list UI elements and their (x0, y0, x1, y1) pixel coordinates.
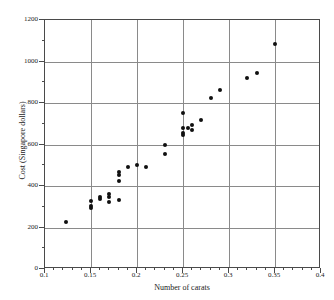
plot-area (44, 19, 320, 268)
gridline-vertical (91, 20, 92, 267)
x-axis-tick-minor (200, 268, 201, 270)
x-axis-tick-label: 0.3 (213, 271, 243, 279)
x-axis-tick-minor (145, 268, 146, 270)
data-point (181, 133, 185, 137)
y-axis-tick-major (39, 268, 44, 269)
y-axis-tick-major (39, 102, 44, 103)
x-axis-tick-label: 0.15 (75, 271, 105, 279)
data-point (144, 165, 148, 169)
y-axis-tick-major (39, 19, 44, 20)
data-point (107, 195, 111, 199)
y-axis-tick-minor (42, 81, 44, 82)
gridline-horizontal (45, 145, 319, 146)
y-axis-tick-minor (42, 164, 44, 165)
gridline-vertical (137, 20, 138, 267)
x-axis-tick-minor (283, 268, 284, 270)
data-point (190, 128, 194, 132)
data-point (163, 152, 167, 156)
x-axis-tick-label: 0.35 (259, 271, 289, 279)
x-axis-tick-minor (99, 268, 100, 270)
y-axis-tick-major (39, 185, 44, 186)
scatter-plot-figure: Number of carats Cost (Singapore dollars… (0, 0, 334, 300)
y-axis-tick-label: 800 (8, 98, 38, 106)
x-axis-tick-minor (292, 268, 293, 270)
x-axis-tick-minor (173, 268, 174, 270)
y-axis-tick-minor (42, 247, 44, 248)
x-axis-tick-label: 0.2 (121, 271, 151, 279)
data-point (199, 118, 203, 122)
data-point (186, 126, 190, 130)
data-point (190, 123, 194, 127)
x-axis-tick-minor (256, 268, 257, 270)
data-point (117, 179, 121, 183)
gridline-horizontal (45, 228, 319, 229)
data-point (98, 197, 102, 201)
gridline-horizontal (45, 103, 319, 104)
x-axis-tick-label: 0.1 (29, 271, 59, 279)
y-axis-tick-major (39, 61, 44, 62)
gridline-vertical (229, 20, 230, 267)
x-axis-tick-minor (53, 268, 54, 270)
x-axis-tick-minor (302, 268, 303, 270)
x-axis-tick-label: 0.25 (167, 271, 197, 279)
x-axis-tick-minor (127, 268, 128, 270)
y-axis-tick-minor (42, 206, 44, 207)
gridline-vertical (275, 20, 276, 267)
data-point (273, 42, 277, 46)
y-axis-tick-label: 1200 (8, 15, 38, 23)
y-axis-tick-label: 400 (8, 181, 38, 189)
gridline-vertical (183, 20, 184, 267)
x-axis-tick-minor (62, 268, 63, 270)
x-axis-tick-minor (311, 268, 312, 270)
data-point (209, 96, 213, 100)
data-point (89, 206, 93, 210)
data-point (89, 199, 93, 203)
y-axis-tick-label: 600 (8, 140, 38, 148)
x-axis-tick-minor (210, 268, 211, 270)
data-point (255, 71, 259, 75)
data-point (245, 76, 249, 80)
y-axis-tick-major (39, 227, 44, 228)
data-point (181, 111, 185, 115)
y-axis-tick-label: 0 (8, 264, 38, 272)
x-axis-tick-minor (108, 268, 109, 270)
data-point (117, 173, 121, 177)
x-axis-tick-minor (219, 268, 220, 270)
x-axis-title: Number of carats (44, 283, 320, 292)
x-axis-tick-minor (164, 268, 165, 270)
x-axis-tick-minor (237, 268, 238, 270)
data-point (181, 126, 185, 130)
x-axis-tick-minor (118, 268, 119, 270)
x-axis-tick-label: 0.4 (305, 271, 334, 279)
data-point (107, 200, 111, 204)
data-point (117, 198, 121, 202)
gridline-horizontal (45, 62, 319, 63)
x-axis-tick-minor (191, 268, 192, 270)
y-axis-tick-label: 1000 (8, 57, 38, 65)
x-axis-tick-minor (246, 268, 247, 270)
data-point (126, 165, 130, 169)
x-axis-tick-minor (265, 268, 266, 270)
data-point (135, 163, 139, 167)
data-point (163, 143, 167, 147)
y-axis-tick-minor (42, 123, 44, 124)
y-axis-tick-label: 200 (8, 223, 38, 231)
data-point (218, 88, 222, 92)
x-axis-tick-minor (81, 268, 82, 270)
y-axis-tick-minor (42, 40, 44, 41)
x-axis-tick-minor (154, 268, 155, 270)
data-point (64, 220, 68, 224)
x-axis-tick-minor (72, 268, 73, 270)
gridline-horizontal (45, 186, 319, 187)
y-axis-tick-major (39, 144, 44, 145)
